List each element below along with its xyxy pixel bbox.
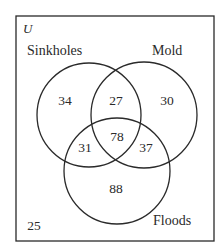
region-sinkholes-only: 34 bbox=[58, 93, 72, 108]
region-sinkholes-mold: 27 bbox=[109, 93, 123, 108]
sinkholes-label: Sinkholes bbox=[27, 43, 82, 58]
universe-label: U bbox=[23, 21, 34, 36]
region-mold-floods: 37 bbox=[139, 140, 153, 155]
region-mold-only: 30 bbox=[160, 93, 174, 108]
mold-label: Mold bbox=[152, 43, 182, 58]
region-none: 25 bbox=[27, 218, 41, 233]
region-all-three: 78 bbox=[110, 129, 124, 144]
floods-label: Floods bbox=[153, 213, 191, 228]
region-floods-only: 88 bbox=[109, 181, 123, 196]
venn-diagram: U Sinkholes Mold Floods 34 27 30 78 31 3… bbox=[0, 0, 219, 246]
region-sinkholes-floods: 31 bbox=[78, 140, 92, 155]
